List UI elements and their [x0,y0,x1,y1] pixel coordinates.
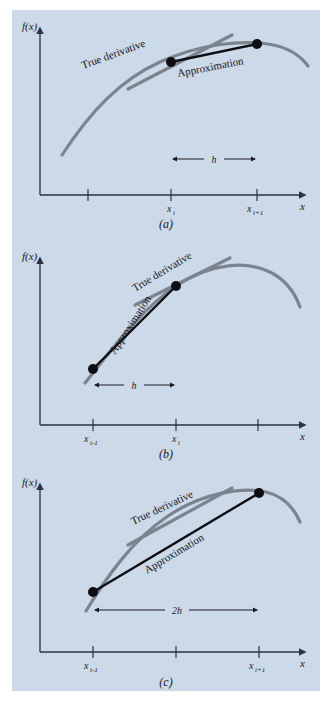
panel-b-h-span: h [95,377,174,393]
panel-a-xtick-base-0: x [166,203,172,214]
panel-b-point-xim1 [88,364,98,374]
panel-a-h-span: h [173,151,255,167]
panel-c-point-xim1 [88,587,98,597]
panel-a-xtick-label-xi: x i [166,203,175,217]
panel-c-xtick-base-0: x [83,660,89,671]
panel-c-approximation-label: Approximation [142,531,206,576]
panel-b-xtick-label-xi: x i [171,433,180,447]
panel-b-xtick-base-0: x [83,433,89,444]
panel-a-xtick-base-1: x [246,203,252,214]
panel-b-x-axis-label: x [299,430,305,442]
panel-a-point-xi [166,57,176,67]
panel-c-point-xi1 [254,488,264,498]
panel-b-approximation-label: Approximation [107,293,154,356]
panel-c-caption: (c) [159,675,172,689]
panel-a: h f(x) x True derivative Approximation x… [0,0,331,712]
panel-c-xtick-sub-1: i+1 [255,666,265,674]
panel-a-axes [40,28,305,201]
panel-c-approximation-line [93,493,259,592]
panel-a-y-axis-label: f(x) [22,20,38,33]
panel-c-y-axis-label: f(x) [22,476,38,489]
panel-c-axes [40,484,305,658]
panel-b-function-curve [85,265,300,383]
panel-b-xtick-label-xim1: x i-1 [83,433,98,447]
panel-c-xtick-label-xim1: x i-1 [83,660,98,674]
panel-b-xtick-sub-0: i-1 [90,439,98,447]
panel-a-true-derivative-label: True derivative [80,37,147,71]
panel-c-h-label: 2h [172,605,182,616]
panel-a-h-label: h [212,154,217,165]
panel-a-xtick-sub-0: i [173,209,175,217]
panel-c-xtick-sub-0: i-1 [90,666,98,674]
panel-b-y-axis-label: f(x) [22,250,38,263]
panel-c-xtick-label-xi1: x i+1 [248,660,265,674]
panel-a-xtick-sub-1: i+1 [253,209,263,217]
panel-c-h-span: 2h [95,601,257,618]
panel-c-x-axis-label: x [299,657,305,669]
panel-b-xtick-base-1: x [171,433,177,444]
panel-a-x-axis-label: x [299,200,305,212]
panel-b-point-xi [171,281,181,291]
panel-b-h-label: h [132,380,137,391]
panel-a-xtick-label-xi1: x i+1 [246,203,263,217]
panel-b-true-derivative-label: True derivative [130,249,194,294]
panel-b-xtick-sub-1: i [178,439,180,447]
panel-a-point-xi1 [252,39,262,49]
panel-a-caption: (a) [159,217,173,231]
figure-root: h f(x) x True derivative Approximation x… [0,0,331,712]
panel-b-caption: (b) [159,447,173,461]
panel-c-xtick-base-1: x [248,660,254,671]
